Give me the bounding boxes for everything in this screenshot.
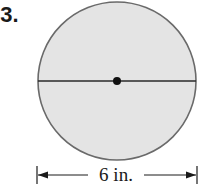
arrow-right-icon <box>186 172 196 179</box>
dimension-label: 6 in. <box>99 164 133 185</box>
center-point <box>113 77 121 85</box>
circle-diagram: 6 in. <box>0 0 202 186</box>
arrow-left-icon <box>38 172 48 179</box>
